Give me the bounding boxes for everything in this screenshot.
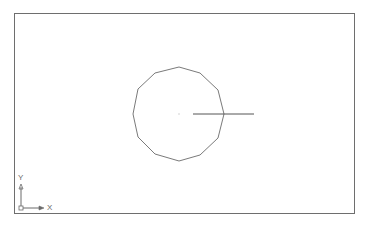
- ucs-x-arrow-icon: [39, 206, 44, 210]
- drawing-canvas[interactable]: [0, 0, 368, 225]
- viewport-frame: [15, 14, 355, 214]
- ucs-x-label: X: [47, 204, 52, 212]
- ucs-icon: [19, 184, 44, 210]
- drawing-viewport[interactable]: Y X: [0, 0, 368, 225]
- center-point: [178, 113, 180, 115]
- ucs-origin-square: [19, 206, 23, 210]
- ucs-y-label: Y: [18, 174, 23, 182]
